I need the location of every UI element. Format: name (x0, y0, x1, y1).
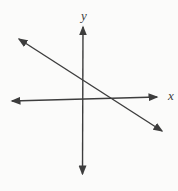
oblique-line (19, 39, 162, 131)
figure-canvas: x y (0, 0, 178, 191)
x-axis-line (12, 97, 157, 101)
y-axis-line (83, 27, 84, 174)
x-axis-label: x (167, 88, 174, 103)
coordinate-plane-diagram: x y (0, 0, 178, 191)
y-axis-label: y (79, 8, 87, 23)
